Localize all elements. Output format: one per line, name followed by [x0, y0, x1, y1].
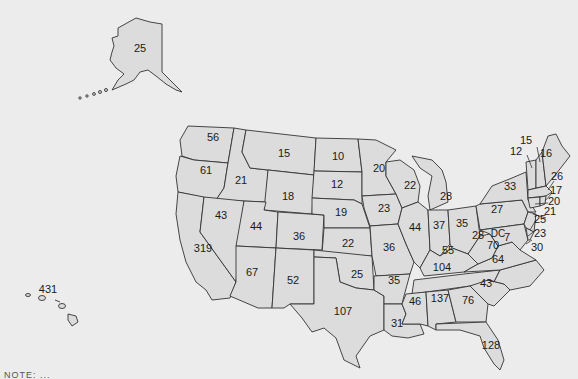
label-va: 70: [487, 239, 499, 251]
label-ar: 35: [388, 274, 400, 286]
label-pa: 27: [491, 203, 503, 215]
label-az: 67: [246, 266, 258, 278]
label-ma: 26: [551, 170, 563, 182]
label-il: 44: [409, 221, 421, 233]
state-alaska[interactable]: [79, 18, 182, 99]
label-oh: 35: [456, 217, 468, 229]
label-mt: 15: [278, 147, 290, 159]
label-nh: 15: [520, 134, 532, 146]
footer-note: NOTE: ...: [4, 370, 51, 379]
label-nd: 10: [332, 150, 344, 162]
label-mi: 28: [440, 190, 452, 202]
label-md: 23: [534, 227, 546, 239]
label-sd: 12: [331, 178, 343, 190]
label-wa: 56: [207, 131, 219, 143]
label-md2: 30: [531, 241, 543, 253]
label-ok: 25: [351, 268, 363, 280]
label-de: 25: [534, 213, 546, 225]
label-me: 16: [540, 147, 552, 159]
label-nm: 52: [287, 274, 299, 286]
label-vt: 12: [510, 145, 522, 157]
label-wy: 18: [282, 190, 294, 202]
label-ks: 22: [342, 237, 354, 249]
label-ia: 23: [378, 202, 390, 214]
state-connecticut[interactable]: [528, 197, 540, 208]
label-nv: 43: [215, 209, 227, 221]
label-fl: 128: [482, 339, 500, 351]
label-sc: 43: [480, 277, 492, 289]
label-tx: 107: [334, 305, 352, 317]
label-dc: 7: [504, 231, 510, 243]
label-mo: 36: [383, 241, 395, 253]
label-co: 36: [293, 230, 305, 242]
us-map: 25 431 56 61 319 21 43 15 18 44 67 36 52…: [0, 0, 578, 379]
label-wi: 22: [404, 179, 416, 191]
label-ky: 55: [442, 244, 454, 256]
label-mn: 20: [373, 162, 385, 174]
label-in: 37: [433, 219, 445, 231]
label-ga: 76: [462, 294, 474, 306]
label-wv: 28: [472, 229, 484, 241]
state-hawaii[interactable]: [26, 294, 79, 327]
label-hi: 431: [39, 283, 57, 295]
label-ne: 19: [335, 206, 347, 218]
label-ca: 319: [194, 242, 212, 254]
label-id: 21: [235, 174, 247, 186]
label-nc: 64: [492, 253, 504, 265]
label-ms: 46: [409, 295, 421, 307]
label-ak: 25: [134, 42, 146, 54]
label-la: 31: [391, 317, 403, 329]
label-ut: 44: [250, 220, 262, 232]
label-tn: 104: [433, 261, 451, 273]
label-al: 137: [431, 292, 449, 304]
label-or: 61: [200, 164, 212, 176]
label-ny: 33: [504, 180, 516, 192]
